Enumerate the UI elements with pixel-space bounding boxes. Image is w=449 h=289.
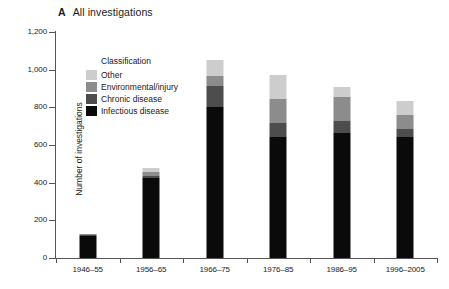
legend-item[interactable]: Other xyxy=(86,69,178,81)
y-axis-tick xyxy=(49,32,55,33)
bar-segment xyxy=(206,86,223,108)
x-axis-tick-label: 1946–55 xyxy=(73,265,103,274)
y-axis-tick xyxy=(49,145,55,146)
x-axis-tick xyxy=(247,258,248,263)
y-axis-tick-label: 1,000 xyxy=(5,65,47,74)
legend-item-label: Chronic disease xyxy=(101,94,162,104)
bar-segment xyxy=(333,87,350,97)
y-axis-tick-label: 600 xyxy=(5,140,47,149)
bar-segment xyxy=(270,123,287,137)
x-axis-tick-label: 1986–95 xyxy=(327,265,357,274)
bar-segment xyxy=(333,133,350,258)
legend-item[interactable]: Chronic disease xyxy=(86,93,178,105)
x-axis-tick xyxy=(310,258,311,263)
bar-1946-55[interactable] xyxy=(79,234,96,258)
x-axis-tick xyxy=(56,258,57,263)
y-axis-tick xyxy=(49,70,55,71)
legend-swatch-icon xyxy=(86,70,97,80)
x-axis-tick-label: 1966–75 xyxy=(200,265,230,274)
bar-segment xyxy=(333,121,350,132)
y-axis-tick-label: 800 xyxy=(5,102,47,111)
bar-segment xyxy=(270,137,287,258)
legend-swatch-icon xyxy=(86,82,97,92)
y-axis-tick xyxy=(49,258,55,259)
legend-items: OtherEnvironmental/injuryChronic disease… xyxy=(86,69,178,117)
y-axis-tick xyxy=(49,107,55,108)
legend-item-label: Infectious disease xyxy=(101,106,169,116)
legend-item[interactable]: Environmental/injury xyxy=(86,81,178,93)
bar-segment xyxy=(270,75,287,99)
bar-segment xyxy=(397,115,414,129)
stacked-bar-chart: 02004006008001,0001,200 1946–551956–6519… xyxy=(0,0,449,289)
y-axis-title: Number of investigations xyxy=(74,74,84,224)
bar-segment xyxy=(397,137,414,258)
bar-1956-65[interactable] xyxy=(143,168,160,258)
x-axis-tick xyxy=(374,258,375,263)
bar-segment xyxy=(206,107,223,258)
bar-segment xyxy=(79,236,96,258)
bar-segment xyxy=(397,101,414,115)
x-axis-tick-label: 1956–65 xyxy=(136,265,166,274)
y-axis-tick xyxy=(49,220,55,221)
bar-1986-95[interactable] xyxy=(333,87,350,258)
y-axis-tick-label: 400 xyxy=(5,178,47,187)
bar-1966-75[interactable] xyxy=(206,60,223,258)
legend-swatch-icon xyxy=(86,106,97,116)
bar-segment xyxy=(270,99,287,123)
y-axis-tick-label: 1,200 xyxy=(5,27,47,36)
y-axis-tick-label: 0 xyxy=(5,253,47,262)
bar-segment xyxy=(206,60,223,76)
legend-item[interactable]: Infectious disease xyxy=(86,105,178,117)
legend-item-label: Other xyxy=(101,70,122,80)
bar-1996-2005[interactable] xyxy=(397,101,414,258)
y-axis-tick xyxy=(49,183,55,184)
bar-segment xyxy=(397,129,414,137)
legend-swatch-icon xyxy=(86,94,97,104)
x-axis-tick xyxy=(183,258,184,263)
bar-segment xyxy=(333,97,350,121)
x-axis-tick xyxy=(437,258,438,263)
y-axis-tick-label: 200 xyxy=(5,215,47,224)
bar-1976-85[interactable] xyxy=(270,75,287,258)
chart-legend: Classification OtherEnvironmental/injury… xyxy=(86,56,178,117)
legend-title: Classification xyxy=(101,56,178,66)
x-axis-tick-label: 1996–2005 xyxy=(386,265,425,274)
x-axis-tick-label: 1976–85 xyxy=(263,265,293,274)
x-axis-tick xyxy=(120,258,121,263)
bar-segment xyxy=(206,76,223,85)
legend-item-label: Environmental/injury xyxy=(101,82,178,92)
bar-segment xyxy=(143,178,160,258)
